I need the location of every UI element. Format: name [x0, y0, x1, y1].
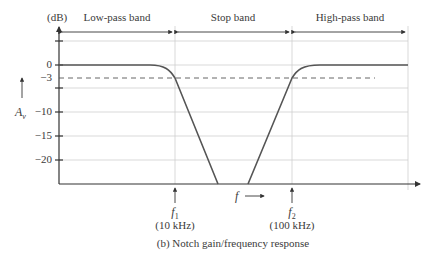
marker-f1-value: (10 kHz) [155, 220, 194, 231]
y-tick-minus-3: −3 [22, 72, 52, 83]
y-symbol-sub: v [22, 112, 26, 121]
y-tick-minus-15: −15 [22, 130, 52, 141]
y-axis-symbol: Av [15, 106, 26, 121]
y-tick-0: 0 [22, 59, 52, 70]
y-axis-unit: (dB) [47, 12, 67, 23]
notch-response-plot [0, 0, 431, 261]
band-label-low-pass: Low-pass band [84, 12, 151, 23]
notch-response-curve [59, 65, 408, 184]
y-tick-minus-20: −20 [22, 154, 52, 165]
band-label-high-pass: High-pass band [316, 12, 385, 23]
gridlines [59, 26, 408, 190]
x-axis-symbol: f [235, 190, 238, 202]
figure-caption: (b) Notch gain/frequency response [157, 238, 309, 249]
band-label-stop: Stop band [211, 12, 255, 23]
marker-f2-value: (100 kHz) [270, 220, 315, 231]
y-tick-minus-10: −10 [22, 106, 52, 117]
axes [55, 27, 420, 184]
